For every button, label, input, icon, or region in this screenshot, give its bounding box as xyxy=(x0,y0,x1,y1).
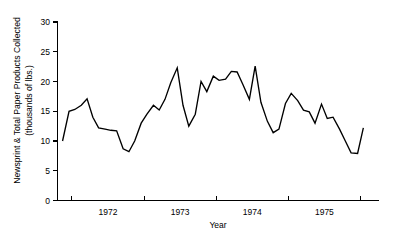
y-tick-label: 20 xyxy=(41,77,51,87)
x-tick-label: 1973 xyxy=(171,207,190,217)
y-tick-label: 0 xyxy=(45,196,50,206)
y-tick-label: 30 xyxy=(41,17,51,27)
chart-container: 051015202530 1972197319741975 Year Newsp… xyxy=(0,0,393,241)
y-tick-label: 15 xyxy=(41,106,51,116)
x-tick-label: 1974 xyxy=(243,207,262,217)
line-chart: 051015202530 1972197319741975 Year xyxy=(0,0,393,241)
y-tick-label: 5 xyxy=(45,166,50,176)
x-axis-title: Year xyxy=(209,220,226,230)
x-axis-ticks-group: 1972197319741975 xyxy=(72,196,361,217)
data-series-line xyxy=(63,66,364,153)
y-tick-label: 10 xyxy=(41,136,51,146)
y-axis-ticks-group: 051015202530 xyxy=(41,17,58,206)
y-tick-label: 25 xyxy=(41,47,51,57)
x-tick-label: 1975 xyxy=(315,207,334,217)
x-tick-label: 1972 xyxy=(99,207,118,217)
